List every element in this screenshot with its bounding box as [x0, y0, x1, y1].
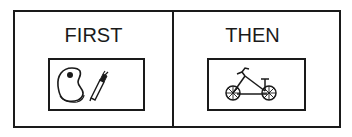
paintbrush-icon — [50, 60, 143, 109]
first-picture-card — [48, 58, 145, 111]
then-picture-card — [207, 58, 306, 111]
then-label: THEN — [174, 25, 331, 45]
first-then-board: FIRST THEN — [13, 10, 341, 128]
bicycle-icon — [209, 60, 304, 109]
first-label: FIRST — [15, 25, 172, 45]
